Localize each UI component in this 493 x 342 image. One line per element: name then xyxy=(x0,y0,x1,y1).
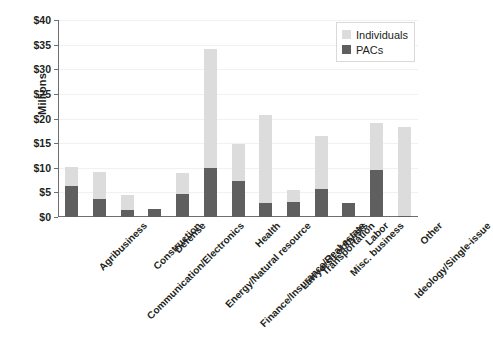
bar-segment-individuals xyxy=(370,123,383,170)
bar-segment-pacs xyxy=(287,202,300,217)
y-tick-label: $0 xyxy=(39,211,51,223)
bar-segment-individuals xyxy=(93,172,106,199)
y-tick-mark xyxy=(54,217,58,218)
bar-group xyxy=(148,209,161,217)
x-axis-labels: AgribusinessCommunication/ElectronicsCon… xyxy=(58,220,435,342)
bar-group xyxy=(204,49,217,217)
y-tick-label: $20 xyxy=(33,113,51,125)
bar-segment-individuals xyxy=(204,49,217,168)
bar-segment-pacs xyxy=(65,186,78,217)
bar-segment-pacs xyxy=(204,168,217,217)
bar-segment-individuals xyxy=(259,115,272,203)
bar-segment-individuals xyxy=(121,195,134,210)
bar-segment-individuals xyxy=(232,144,245,181)
bar-group xyxy=(315,136,328,217)
bar-group xyxy=(121,195,134,217)
bar-group xyxy=(259,115,272,217)
bar-segment-individuals xyxy=(398,127,411,215)
x-axis-label-text: Agribusiness xyxy=(96,220,149,273)
bar-segment-pacs xyxy=(93,199,106,217)
bar-segment-individuals xyxy=(65,167,78,186)
y-tick-label: $35 xyxy=(33,39,51,51)
x-axis-label-text: Other xyxy=(418,220,445,247)
bar-group xyxy=(287,190,300,217)
bar-segment-individuals xyxy=(176,173,189,194)
x-axis-label: Agribusiness xyxy=(96,220,149,273)
bar-group xyxy=(176,173,189,217)
bar-segment-pacs xyxy=(342,203,355,217)
bar-segment-pacs xyxy=(121,210,134,217)
bar-segment-pacs xyxy=(259,203,272,217)
legend-label-pacs: PACs xyxy=(356,44,383,56)
bar-group xyxy=(65,167,78,217)
bar-group xyxy=(370,123,383,217)
x-axis-label-text: Health xyxy=(253,220,282,249)
y-tick-label: $30 xyxy=(33,63,51,75)
bar-group xyxy=(342,203,355,217)
bar-segment-pacs xyxy=(148,209,161,217)
bar-segment-pacs xyxy=(370,170,383,217)
bar-segment-pacs xyxy=(315,189,328,217)
legend-item-pacs: PACs xyxy=(342,42,408,57)
legend-swatch-pacs xyxy=(342,45,351,54)
chart-legend: Individuals PACs xyxy=(336,22,415,62)
bar-segment-individuals xyxy=(315,136,328,190)
bar-group xyxy=(398,127,411,217)
bar-segment-pacs xyxy=(232,181,245,217)
legend-item-individuals: Individuals xyxy=(342,27,408,42)
y-tick-label: $40 xyxy=(33,14,51,26)
y-tick-label: $5 xyxy=(39,186,51,198)
legend-swatch-individuals xyxy=(342,30,351,39)
y-tick-label: $25 xyxy=(33,88,51,100)
legend-label-individuals: Individuals xyxy=(356,29,408,41)
bar-segment-pacs xyxy=(176,194,189,217)
bar-segment-individuals xyxy=(287,190,300,201)
bar-segment-pacs xyxy=(398,216,411,217)
y-tick-label: $15 xyxy=(33,137,51,149)
x-axis-label: Health xyxy=(253,220,282,249)
bar-group xyxy=(232,144,245,217)
x-axis-label: Other xyxy=(418,220,445,247)
bar-group xyxy=(93,172,106,217)
y-tick-label: $10 xyxy=(33,162,51,174)
